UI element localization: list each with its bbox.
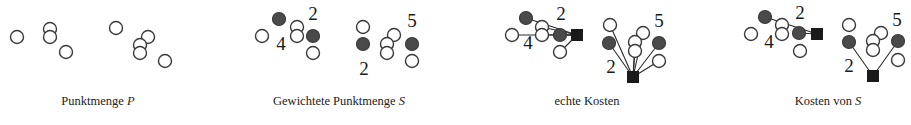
- center-square: [571, 29, 583, 41]
- caption-kosten-von-s: Kosten von S: [795, 94, 862, 109]
- open-point: [60, 46, 73, 59]
- caption-text: Kosten von: [795, 94, 855, 108]
- open-point: [629, 45, 642, 58]
- open-point: [134, 47, 147, 60]
- open-point: [256, 30, 269, 43]
- open-point: [867, 44, 880, 57]
- weighted-point: [520, 12, 533, 25]
- weight-label: 2: [359, 58, 369, 79]
- weighted-point: [307, 30, 320, 43]
- caption-echte-kosten: echte Kosten: [555, 94, 620, 109]
- open-point: [745, 28, 758, 41]
- weight-label: 5: [892, 9, 902, 30]
- weighted-point: [554, 29, 567, 42]
- weight-label: 2: [795, 2, 805, 23]
- caption-text: echte Kosten: [555, 94, 620, 108]
- open-point: [357, 21, 370, 34]
- weight-label: 5: [654, 10, 664, 31]
- weighted-point: [603, 37, 616, 50]
- weighted-point: [653, 37, 666, 50]
- open-point: [776, 28, 789, 41]
- weight-label: 2: [308, 3, 318, 24]
- open-point: [381, 47, 394, 60]
- panel-gewichtete-punktmenge: 2425: [256, 3, 419, 79]
- weight-label: 5: [407, 10, 417, 31]
- weight-label: 2: [556, 3, 566, 24]
- weight-label: 4: [764, 31, 774, 52]
- open-point: [536, 29, 549, 42]
- open-point: [554, 46, 567, 59]
- center-square: [627, 71, 639, 83]
- open-point: [11, 31, 24, 44]
- open-point: [307, 47, 320, 60]
- open-point: [44, 31, 57, 44]
- weighted-point: [843, 36, 856, 49]
- edge-line: [526, 18, 577, 35]
- caption-variable: P: [127, 94, 135, 108]
- caption-punktmenge: Punktmenge P: [61, 94, 134, 109]
- panel-punktmenge: [11, 22, 172, 68]
- weight-label: 4: [276, 33, 286, 54]
- caption-text: Punktmenge: [61, 94, 127, 108]
- weighted-point: [892, 35, 905, 48]
- weighted-point: [759, 11, 772, 24]
- open-point: [794, 45, 807, 58]
- caption-text: Gewichtete Punktmenge: [273, 94, 399, 108]
- weight-label: 4: [523, 32, 533, 53]
- open-point: [843, 19, 856, 32]
- open-point: [506, 29, 519, 42]
- open-point: [604, 19, 617, 32]
- caption-variable: S: [855, 94, 861, 108]
- weighted-point: [357, 38, 370, 51]
- open-point: [406, 55, 419, 68]
- panel-echte-kosten: 2425: [506, 3, 666, 83]
- open-point: [291, 30, 304, 43]
- open-point: [653, 55, 666, 68]
- weight-label: 2: [606, 56, 616, 77]
- caption-gewichtete-punktmenge: Gewichtete Punktmenge S: [273, 94, 405, 109]
- diagram-canvas: 242524252425: [0, 0, 911, 125]
- weighted-point: [406, 38, 419, 51]
- open-point: [110, 22, 123, 35]
- panel-kosten-von-s: 2425: [745, 2, 905, 82]
- open-point: [892, 54, 905, 67]
- weighted-point: [793, 27, 806, 40]
- center-square: [811, 28, 823, 40]
- open-point: [159, 55, 172, 68]
- weight-label: 2: [844, 55, 854, 76]
- center-square: [867, 70, 879, 82]
- weighted-point: [273, 13, 286, 26]
- caption-variable: S: [399, 94, 405, 108]
